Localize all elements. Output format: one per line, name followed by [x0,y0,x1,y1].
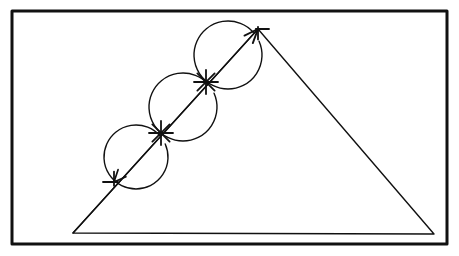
arrow-shaft-line [73,29,258,233]
geometry-figure [0,0,459,256]
cross-mark-middle [149,121,173,145]
triangle-outline [73,29,434,234]
circles-group [104,21,262,189]
arrow-group [73,29,258,233]
diagram-canvas [0,0,459,256]
cross-mark-upper [194,70,218,94]
cross-marks-group [103,27,269,186]
outer-border-rectangle [12,11,447,244]
